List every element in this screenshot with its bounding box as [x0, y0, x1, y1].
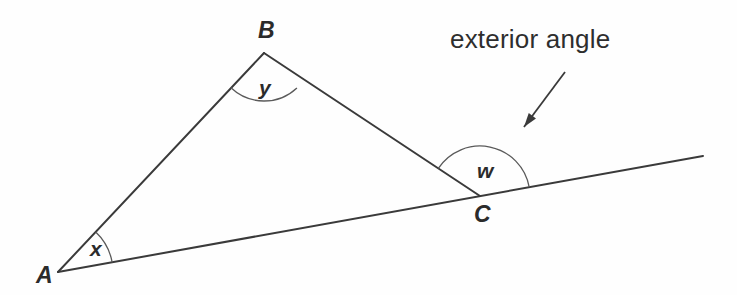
side-AB	[58, 53, 264, 272]
vertex-label-b: B	[258, 19, 275, 42]
diagram-canvas: exterior angle A B C x y w	[0, 0, 737, 295]
base-ray-AC-extended	[58, 156, 703, 272]
angle-arcs-group	[96, 88, 529, 262]
annotation-arrow-head	[524, 113, 536, 127]
angle-label-w: w	[477, 160, 493, 181]
geometry-figure	[0, 0, 737, 295]
annotation-arrow-group	[524, 72, 565, 127]
side-BC	[264, 53, 480, 196]
angle-label-x: x	[90, 238, 102, 259]
vertex-label-c: C	[474, 203, 491, 226]
exterior-angle-annotation-label: exterior angle	[450, 26, 610, 52]
angle-label-y: y	[259, 77, 271, 98]
segments-group	[58, 53, 703, 272]
vertex-label-a: A	[36, 264, 53, 287]
